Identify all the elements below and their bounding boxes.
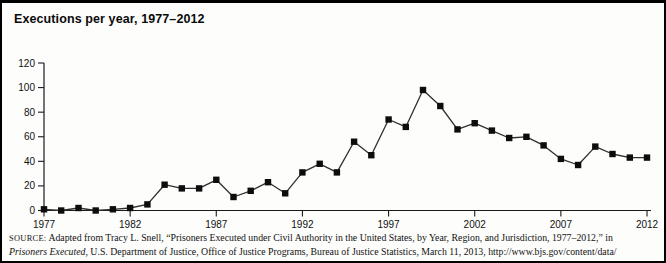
data-point-2006 (540, 142, 546, 148)
y-tick-label: 100 (18, 82, 35, 93)
data-point-1992 (299, 169, 305, 175)
executions-figure: Executions per year, 1977–2012 020406080… (0, 0, 666, 263)
data-point-1994 (334, 169, 340, 175)
data-point-2003 (489, 127, 495, 133)
data-point-1978 (58, 207, 64, 213)
data-point-1977 (41, 206, 47, 212)
data-point-1986 (196, 185, 202, 191)
x-tick-label: 1987 (205, 219, 228, 230)
data-point-2008 (575, 162, 581, 168)
data-line (44, 90, 647, 211)
y-tick-label: 80 (24, 107, 36, 118)
data-point-1995 (351, 139, 357, 145)
data-point-1984 (161, 182, 167, 188)
data-point-1990 (265, 179, 271, 185)
y-tick-label: 40 (24, 156, 36, 167)
data-point-1996 (368, 152, 374, 158)
data-point-2000 (437, 103, 443, 109)
source-label: SOURCE: (9, 234, 46, 243)
x-tick-label: 2002 (464, 219, 487, 230)
data-point-2011 (627, 154, 633, 160)
source-work-title: Prisoners Executed (9, 246, 85, 257)
data-point-2005 (523, 134, 529, 140)
data-point-1987 (213, 177, 219, 183)
data-point-1988 (230, 194, 236, 200)
y-tick-label: 20 (24, 180, 36, 191)
source-text-1: Adapted from Tracy L. Snell, “Prisoners … (48, 232, 613, 243)
data-point-1981 (110, 206, 116, 212)
x-tick-label: 1992 (291, 219, 314, 230)
data-point-1983 (144, 201, 150, 207)
x-tick-label: 1982 (119, 219, 142, 230)
x-tick-label: 1997 (377, 219, 400, 230)
data-point-2001 (454, 126, 460, 132)
x-tick-label: 2012 (636, 219, 659, 230)
data-point-1991 (282, 190, 288, 196)
data-point-2004 (506, 135, 512, 141)
data-point-1979 (75, 205, 81, 211)
source-line-2: Prisoners Executed, U.S. Department of J… (9, 245, 665, 258)
data-point-1980 (93, 207, 99, 213)
data-point-2009 (592, 143, 598, 149)
data-point-2010 (609, 151, 615, 157)
data-point-2007 (558, 156, 564, 162)
y-tick-label: 0 (29, 205, 35, 216)
data-point-1989 (248, 188, 254, 194)
data-point-1993 (317, 161, 323, 167)
data-point-1999 (420, 87, 426, 93)
y-tick-label: 120 (18, 58, 35, 69)
data-point-2002 (472, 120, 478, 126)
source-text-2: , U.S. Department of Justice, Office of … (85, 246, 616, 257)
data-point-1982 (127, 205, 133, 211)
source-line-1: SOURCE: Adapted from Tracy L. Snell, “Pr… (9, 231, 665, 245)
executions-line-chart: 0204060801001201977198219871992199720022… (1, 1, 666, 231)
data-point-2012 (644, 154, 650, 160)
data-point-1998 (403, 124, 409, 130)
data-point-1985 (179, 185, 185, 191)
y-tick-label: 60 (24, 131, 36, 142)
source-note: SOURCE: Adapted from Tracy L. Snell, “Pr… (9, 231, 665, 259)
x-tick-label: 1977 (33, 219, 56, 230)
x-tick-label: 2007 (550, 219, 573, 230)
data-point-1997 (385, 116, 391, 122)
